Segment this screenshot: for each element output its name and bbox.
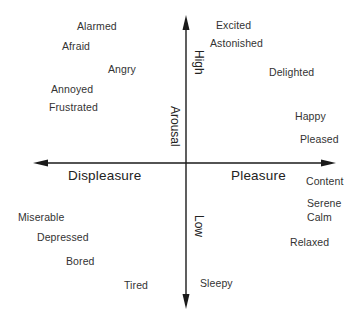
arrow-down-icon xyxy=(183,294,190,309)
emotion-afraid: Afraid xyxy=(62,40,90,52)
emotion-pleased: Pleased xyxy=(300,133,339,145)
emotion-serene: Serene xyxy=(307,197,341,209)
emotion-tired: Tired xyxy=(124,279,148,291)
emotion-content: Content xyxy=(306,175,343,187)
axes xyxy=(0,0,362,322)
displeasure-label: Displeasure xyxy=(68,168,141,183)
horizontal-axis xyxy=(33,160,336,167)
emotion-miserable: Miserable xyxy=(18,211,64,223)
emotion-delighted: Delighted xyxy=(269,66,314,78)
emotion-happy: Happy xyxy=(295,110,326,122)
emotion-annoyed: Annoyed xyxy=(51,83,93,95)
emotion-bored: Bored xyxy=(66,255,95,267)
high-label: High xyxy=(192,50,205,75)
emotion-calm: Calm xyxy=(307,211,332,223)
arousal-label: Arousal xyxy=(168,106,181,147)
emotion-alarmed: Alarmed xyxy=(77,20,117,32)
vertical-axis xyxy=(183,15,190,309)
circumplex-diagram: Displeasure Pleasure High Arousal Low Al… xyxy=(0,0,362,322)
arrow-up-icon xyxy=(183,15,190,30)
emotion-frustrated: Frustrated xyxy=(49,101,98,113)
emotion-relaxed: Relaxed xyxy=(290,236,329,248)
arrow-right-icon xyxy=(321,160,336,167)
emotion-angry: Angry xyxy=(108,63,136,75)
low-label: Low xyxy=(192,215,205,237)
emotion-sleepy: Sleepy xyxy=(200,277,233,289)
emotion-depressed: Depressed xyxy=(37,231,89,243)
pleasure-label: Pleasure xyxy=(231,168,286,183)
arrow-left-icon xyxy=(33,160,48,167)
emotion-astonished: Astonished xyxy=(210,37,263,49)
emotion-excited: Excited xyxy=(216,19,251,31)
